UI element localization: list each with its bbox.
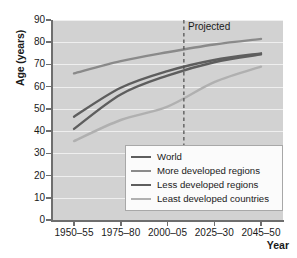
legend-item-label: Less developed regions	[157, 180, 258, 190]
chart-legend: WorldMore developed regionsLess develope…	[125, 145, 283, 211]
legend-item: More developed regions	[131, 164, 277, 178]
y-tick-label: 0	[5, 215, 45, 225]
x-tick-mark	[167, 221, 169, 226]
legend-color-swatch	[131, 170, 151, 173]
x-tick-mark	[120, 221, 122, 226]
y-tick-label: 20	[5, 171, 45, 181]
legend-item-label: World	[157, 152, 182, 162]
y-tick-mark	[46, 86, 51, 88]
y-tick-mark	[46, 130, 51, 132]
x-tick-mark	[214, 221, 216, 226]
y-tick-label: 80	[5, 37, 45, 47]
y-tick-label: 40	[5, 126, 45, 136]
y-tick-mark	[46, 175, 51, 177]
projected-annotation-label: Projected	[188, 21, 230, 32]
y-tick-mark	[46, 197, 51, 199]
legend-item: Less developed regions	[131, 178, 277, 192]
x-axis-title: Year	[0, 239, 289, 251]
life-expectancy-line-chart: Age (years) Year 0102030405060708090 195…	[0, 0, 297, 258]
legend-color-swatch	[131, 184, 151, 187]
y-tick-mark	[46, 153, 51, 155]
y-tick-mark	[46, 19, 51, 21]
y-tick-mark	[46, 108, 51, 110]
legend-color-swatch	[131, 198, 151, 201]
y-tick-mark	[46, 41, 51, 43]
legend-color-swatch	[131, 156, 151, 159]
y-tick-label: 60	[5, 82, 45, 92]
legend-item-label: More developed regions	[157, 166, 260, 176]
y-tick-label: 50	[5, 104, 45, 114]
x-tick-mark	[73, 221, 75, 226]
legend-item: Least developed countries	[131, 192, 277, 206]
y-tick-mark	[46, 219, 51, 221]
y-tick-label: 10	[5, 193, 45, 203]
legend-item: World	[131, 150, 277, 164]
y-tick-label: 70	[5, 59, 45, 69]
x-tick-label: 2045–50	[226, 227, 296, 238]
y-tick-label: 90	[5, 15, 45, 25]
y-tick-mark	[46, 64, 51, 66]
legend-item-label: Least developed countries	[157, 194, 269, 204]
x-tick-mark	[260, 221, 262, 226]
y-axis-line	[51, 20, 53, 221]
y-tick-label: 30	[5, 148, 45, 158]
